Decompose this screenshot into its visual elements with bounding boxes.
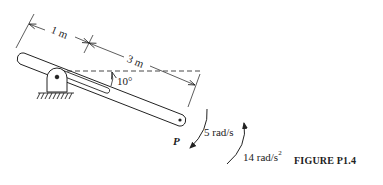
angle-label: 10°	[117, 76, 132, 87]
angular-acceleration-exponent: 2	[278, 149, 282, 157]
ground-hatch	[37, 93, 74, 99]
point-p-pin	[178, 118, 181, 121]
pivot-support	[47, 68, 67, 92]
angular-acceleration-value: 14 rad/s	[243, 151, 278, 163]
angle-arc	[111, 72, 113, 86]
angular-velocity-label: 5 rad/s	[204, 127, 234, 138]
slotted-bar	[17, 53, 186, 126]
angular-acceleration-label: 14 rad/s2	[243, 152, 282, 163]
point-label-p: P	[173, 136, 180, 147]
figure-caption: FIGURE P1.4	[294, 156, 356, 166]
